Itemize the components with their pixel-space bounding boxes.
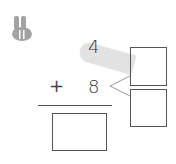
decompose-box-bottom[interactable] [130,89,167,127]
top-number: 4 [88,38,99,56]
decompose-connector [110,76,130,96]
bunny-icon [12,16,32,41]
plus-operator: + [49,77,64,95]
bottom-number: 8 [88,78,99,96]
decompose-box-top[interactable] [130,47,167,86]
sum-line [38,105,112,106]
answer-box[interactable] [52,113,107,151]
